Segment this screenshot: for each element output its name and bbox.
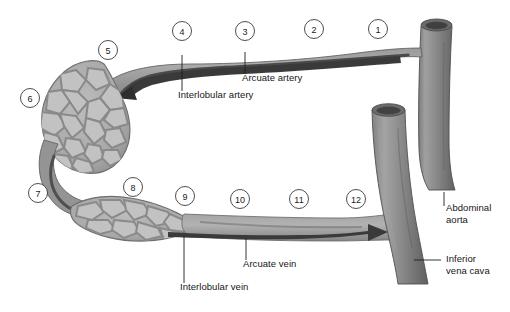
marker-3[interactable]: 3 [236,22,255,41]
marker-5[interactable]: 5 [99,41,118,60]
marker-11[interactable]: 11 [290,190,309,209]
label-arcuate-artery: Arcuate artery [242,72,302,84]
marker-7-label: 7 [35,189,40,199]
marker-6-label: 6 [27,94,32,104]
marker-4[interactable]: 4 [173,22,192,41]
marker-8-label: 8 [130,183,135,193]
marker-9-label: 9 [182,192,187,202]
abdominal-aorta-vessel [419,19,455,190]
marker-12[interactable]: 12 [347,190,366,209]
label-interlobular-artery: Interlobular artery [178,89,253,101]
marker-2[interactable]: 2 [305,20,324,39]
label-abdominal-aorta: Abdominal aorta [446,202,491,225]
marker-3-label: 3 [242,27,247,37]
label-interlobular-vein: Interlobular vein [180,281,248,293]
marker-5-label: 5 [105,46,110,56]
renal-circulation-figure: 1 2 3 4 5 6 7 [0,0,510,312]
marker-9[interactable]: 9 [176,187,195,206]
renal-vein-branch [168,214,390,241]
marker-11-label: 11 [294,195,303,205]
label-inferior-vena-cava: Inferior vena cava [446,253,490,276]
marker-1-label: 1 [375,25,380,35]
marker-12-label: 12 [351,195,361,205]
marker-6[interactable]: 6 [21,89,40,108]
marker-7[interactable]: 7 [29,184,48,203]
label-arcuate-vein: Arcuate vein [243,258,296,270]
marker-10-label: 10 [235,195,245,205]
marker-10[interactable]: 10 [231,190,250,209]
marker-1[interactable]: 1 [369,20,388,39]
marker-4-label: 4 [179,27,184,37]
marker-2-label: 2 [311,25,316,35]
marker-8[interactable]: 8 [124,178,143,197]
